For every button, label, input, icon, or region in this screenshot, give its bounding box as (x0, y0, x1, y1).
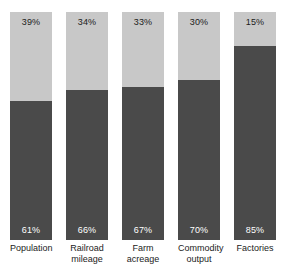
category-label-railroad-mileage: Railroadmileage (66, 243, 108, 265)
bar-segment-top[interactable]: 30% (178, 12, 220, 80)
bar-segment-bottom[interactable]: 61% (10, 101, 52, 240)
bar-segment-top-label: 39% (22, 12, 40, 27)
category-label-line: Population (10, 243, 52, 254)
bar-segment-top[interactable]: 34% (66, 12, 108, 90)
bar-segment-top-label: 30% (190, 12, 208, 27)
bar-segment-bottom-label: 70% (190, 225, 208, 240)
category-label-line: output (178, 254, 220, 265)
bar-segment-top[interactable]: 33% (122, 12, 164, 87)
category-label-line: Farm (122, 243, 164, 254)
bar-segment-bottom[interactable]: 67% (122, 87, 164, 240)
category-label-line: Factories (234, 243, 276, 254)
bar-group-population[interactable]: 39% 61% (10, 12, 52, 240)
bar-segment-top-label: 34% (78, 12, 96, 27)
bar-segment-top-label: 33% (134, 12, 152, 27)
bar-segment-bottom-label: 61% (22, 225, 40, 240)
bar-group-commodity-output[interactable]: 30% 70% (178, 12, 220, 240)
bar-segment-bottom-label: 66% (78, 225, 96, 240)
category-label-farm-acreage: Farmacreage (122, 243, 164, 265)
bar-group-farm-acreage[interactable]: 33% 67% (122, 12, 164, 240)
bar-group-railroad-mileage[interactable]: 34% 66% (66, 12, 108, 240)
bar-segment-top[interactable]: 15% (234, 12, 276, 46)
bar-segment-top-label: 15% (246, 12, 264, 27)
category-label-factories: Factories (234, 243, 276, 265)
category-label-line: Commodity (178, 243, 220, 254)
bar-segment-bottom[interactable]: 66% (66, 90, 108, 240)
bar-segment-bottom-label: 67% (134, 225, 152, 240)
bar-segment-bottom[interactable]: 70% (178, 80, 220, 240)
category-label-line: Railroad (66, 243, 108, 254)
category-label-line: mileage (66, 254, 108, 265)
category-label-line: acreage (122, 254, 164, 265)
bar-segment-top[interactable]: 39% (10, 12, 52, 101)
chart-plot-area: 39% 61% 34% 66% 33% 67% 30% (10, 12, 282, 240)
bar-segment-bottom[interactable]: 85% (234, 46, 276, 240)
category-label-population: Population (10, 243, 52, 265)
bar-segment-bottom-label: 85% (246, 225, 264, 240)
category-label-commodity-output: Commodityoutput (178, 243, 220, 265)
bar-group-factories[interactable]: 15% 85% (234, 12, 276, 240)
category-axis: Population Railroadmileage Farmacreage C… (10, 243, 282, 265)
stacked-bar-chart: 39% 61% 34% 66% 33% 67% 30% (0, 0, 292, 267)
